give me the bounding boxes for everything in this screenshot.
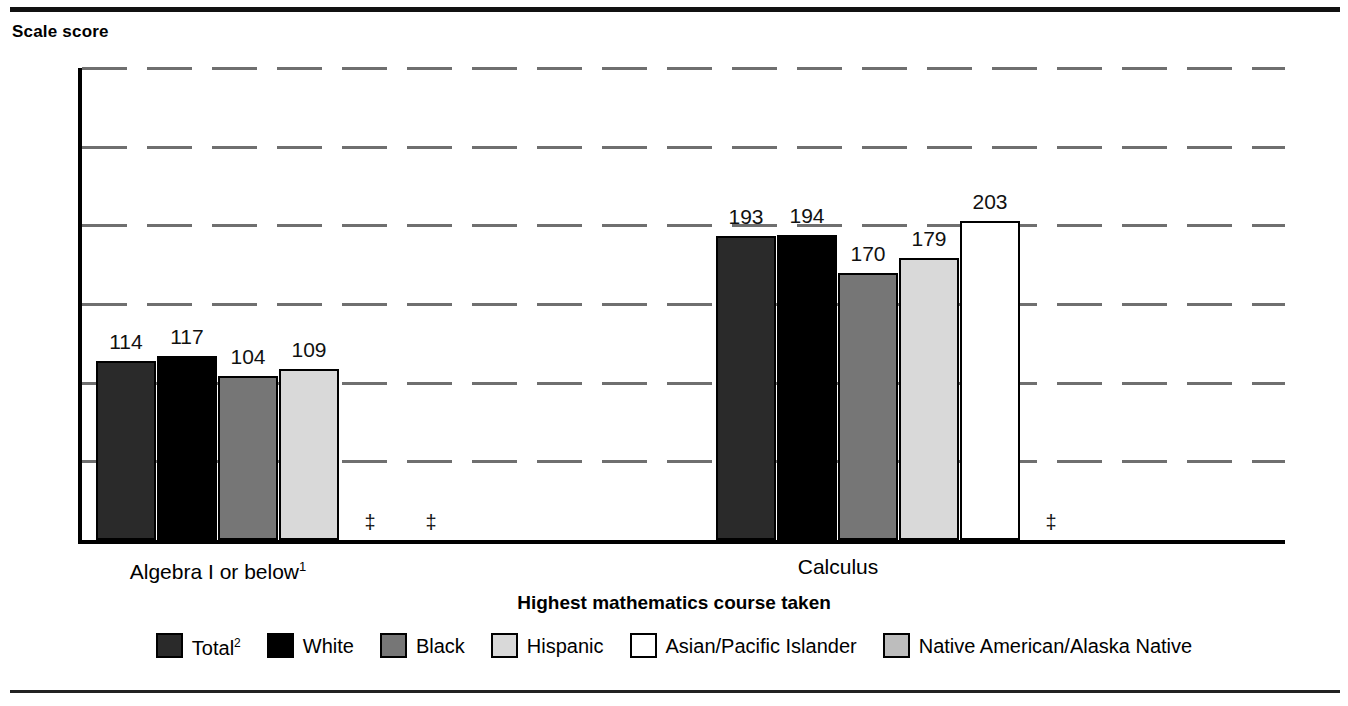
gridline xyxy=(82,224,1285,227)
bar[interactable] xyxy=(157,356,217,540)
top-divider-rule xyxy=(10,7,1340,12)
suppressed-value-marker: ‡ xyxy=(340,512,400,532)
bar-value-label: 179 xyxy=(899,228,959,249)
bar-value-label: 104 xyxy=(218,346,278,367)
x-axis-group-label: Algebra I or below1 xyxy=(16,556,420,582)
y-axis-title: Scale score xyxy=(12,22,109,42)
x-axis-line xyxy=(78,540,1285,544)
bar[interactable] xyxy=(279,369,339,540)
legend-swatch-icon xyxy=(883,633,910,658)
legend-swatch-icon xyxy=(380,633,407,658)
bar-value-label: 193 xyxy=(716,206,776,227)
legend-label: Native American/Alaska Native xyxy=(919,636,1192,656)
bar[interactable] xyxy=(716,236,776,540)
bar[interactable] xyxy=(96,361,156,540)
legend-label: Total2 xyxy=(192,633,241,658)
bar-value-label: 117 xyxy=(157,326,217,347)
gridline xyxy=(82,303,1285,306)
legend-swatch-icon xyxy=(491,633,518,658)
legend-label: Black xyxy=(416,636,465,656)
bar-value-label: 170 xyxy=(838,243,898,264)
bar[interactable] xyxy=(899,258,959,540)
x-axis-title: Highest mathematics course taken xyxy=(0,592,1348,614)
bar[interactable] xyxy=(777,235,837,540)
suppressed-value-marker: ‡ xyxy=(1021,512,1081,532)
bar-value-label: 109 xyxy=(279,339,339,360)
legend-label: White xyxy=(303,636,354,656)
legend-item[interactable]: Total2 xyxy=(156,633,241,658)
suppressed-value-marker: ‡ xyxy=(401,512,461,532)
legend-swatch-icon xyxy=(156,633,183,658)
legend-item[interactable]: White xyxy=(267,633,354,658)
chart-plot-area: 300250200150100500 114117104109‡‡1931941… xyxy=(78,68,1285,540)
footnote-marker: 2 xyxy=(234,636,241,650)
legend-item[interactable]: Native American/Alaska Native xyxy=(883,633,1192,658)
bar[interactable] xyxy=(218,376,278,540)
legend-swatch-icon xyxy=(267,633,294,658)
bar[interactable] xyxy=(960,221,1020,540)
footnote-marker: 1 xyxy=(299,559,306,574)
legend-swatch-icon xyxy=(630,633,657,658)
bar-value-label: 203 xyxy=(960,191,1020,212)
y-axis-line xyxy=(78,68,82,540)
bar-value-label: 194 xyxy=(777,205,837,226)
bar[interactable] xyxy=(838,273,898,540)
x-axis-group-label: Calculus xyxy=(636,556,1040,577)
legend-item[interactable]: Hispanic xyxy=(491,633,604,658)
gridline xyxy=(82,67,1285,70)
legend-item[interactable]: Black xyxy=(380,633,465,658)
bottom-divider-rule xyxy=(10,690,1340,693)
bar-value-label: 114 xyxy=(96,331,156,352)
gridline xyxy=(82,146,1285,149)
chart-legend: Total2WhiteBlackHispanicAsian/Pacific Is… xyxy=(0,633,1348,658)
legend-label: Hispanic xyxy=(527,636,604,656)
legend-item[interactable]: Asian/Pacific Islander xyxy=(630,633,857,658)
legend-label: Asian/Pacific Islander xyxy=(666,636,857,656)
